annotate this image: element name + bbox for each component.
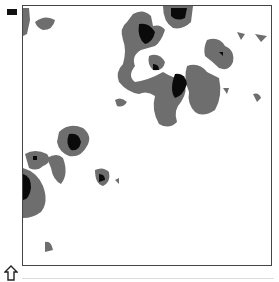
contour-map-plot	[23, 6, 272, 266]
menu-bar-icon[interactable]	[7, 9, 17, 15]
home-up-arrow-icon[interactable]	[4, 265, 18, 281]
contour-map-frame[interactable]	[22, 5, 272, 266]
bottom-divider	[22, 278, 274, 279]
